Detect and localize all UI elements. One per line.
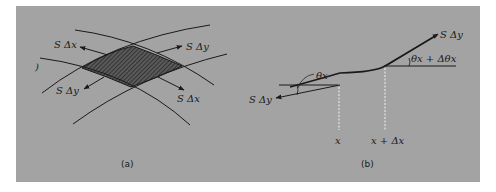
membrane-diagram: S Δx S Δy S Δy S Δx ) (a) θx θx + Δθx S … — [0, 0, 496, 192]
subfigure-a: S Δx S Δy S Δy S Δx ) (a) — [34, 25, 227, 169]
label-top-left: S Δx — [54, 39, 77, 50]
label-x: x — [335, 135, 341, 146]
arrow-top-left — [80, 47, 108, 55]
label-top-right: S Δy — [186, 41, 209, 52]
arrow-bottom-left — [84, 77, 104, 89]
label-x-plus-dx: x + Δx — [371, 135, 405, 146]
force-arrow-left — [276, 85, 340, 98]
label-force-right: S Δy — [440, 29, 463, 40]
angle-arc-left — [297, 85, 298, 95]
subfigure-b: θx θx + Δθx S Δy S Δy x x + Δx (b) — [249, 29, 463, 169]
label-bottom-left: S Δy — [56, 85, 79, 96]
label-angle-right: θx + Δθx — [411, 53, 457, 64]
label-force-left: S Δy — [249, 94, 272, 105]
angle-arc-right — [409, 58, 410, 66]
label-angle-left: θx — [316, 70, 328, 81]
caption-b: (b) — [361, 159, 374, 169]
label-bottom-right: S Δx — [177, 93, 200, 104]
arrow-bottom-right — [158, 77, 184, 90]
stray-mark: ) — [34, 61, 39, 72]
arrow-top-right — [157, 46, 182, 53]
caption-a: (a) — [121, 159, 134, 169]
